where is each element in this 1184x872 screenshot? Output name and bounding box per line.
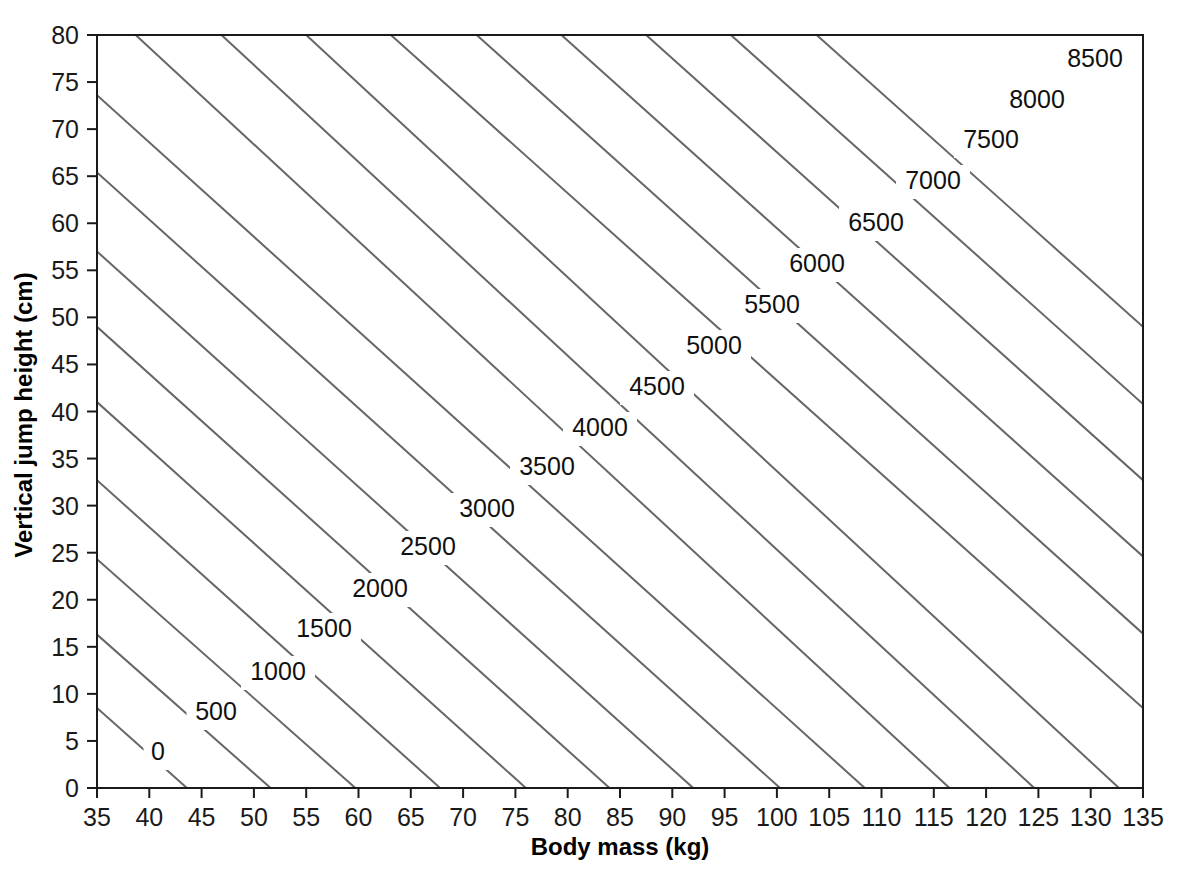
y-tick-label-45: 45 bbox=[51, 350, 79, 378]
x-tick-label-70: 70 bbox=[449, 803, 477, 831]
x-tick-label-55: 55 bbox=[292, 803, 320, 831]
x-tick-label-135: 135 bbox=[1122, 803, 1164, 831]
x-axis-title: Body mass (kg) bbox=[531, 833, 710, 860]
x-tick-label-65: 65 bbox=[397, 803, 425, 831]
x-axis-tick-labels: 3540455055606570758085909510010511011512… bbox=[83, 803, 1164, 831]
y-tick-label-50: 50 bbox=[51, 303, 79, 331]
contour-label-3500: 3500 bbox=[519, 452, 575, 480]
x-tick-label-85: 85 bbox=[606, 803, 634, 831]
y-axis-tick-labels: 05101520253035404550556065707580 bbox=[51, 21, 79, 802]
contour-label-1500: 1500 bbox=[296, 614, 352, 642]
x-tick-label-40: 40 bbox=[135, 803, 163, 831]
x-tick-label-105: 105 bbox=[808, 803, 850, 831]
x-tick-label-95: 95 bbox=[711, 803, 739, 831]
y-tick-label-30: 30 bbox=[51, 492, 79, 520]
contour-label-2000: 2000 bbox=[352, 574, 408, 602]
x-tick-label-75: 75 bbox=[501, 803, 529, 831]
contour-label-8500: 8500 bbox=[1067, 44, 1123, 72]
contour-label-5000: 5000 bbox=[686, 331, 742, 359]
contour-label-3000: 3000 bbox=[459, 494, 515, 522]
y-tick-label-25: 25 bbox=[51, 539, 79, 567]
y-tick-label-5: 5 bbox=[65, 727, 79, 755]
x-tick-label-80: 80 bbox=[554, 803, 582, 831]
contour-label-2500: 2500 bbox=[400, 532, 456, 560]
y-tick-label-0: 0 bbox=[65, 774, 79, 802]
x-tick-label-45: 45 bbox=[188, 803, 216, 831]
x-tick-label-90: 90 bbox=[658, 803, 686, 831]
x-tick-label-100: 100 bbox=[756, 803, 798, 831]
x-axis-ticks bbox=[97, 788, 1143, 798]
contour-label-7000: 7000 bbox=[905, 166, 961, 194]
x-tick-label-125: 125 bbox=[1018, 803, 1060, 831]
x-tick-label-35: 35 bbox=[83, 803, 111, 831]
contour-plot-svg: 0500100015002000250030003500400045005000… bbox=[0, 0, 1184, 872]
contour-label-500: 500 bbox=[195, 697, 237, 725]
x-tick-label-130: 130 bbox=[1070, 803, 1112, 831]
x-tick-label-120: 120 bbox=[965, 803, 1007, 831]
y-tick-label-80: 80 bbox=[51, 21, 79, 49]
y-tick-label-35: 35 bbox=[51, 445, 79, 473]
x-tick-label-115: 115 bbox=[914, 803, 954, 831]
y-axis-title: Vertical jump height (cm) bbox=[10, 272, 37, 557]
contour-label-4000: 4000 bbox=[572, 413, 628, 441]
contour-label-6500: 6500 bbox=[848, 208, 904, 236]
y-tick-label-40: 40 bbox=[51, 398, 79, 426]
contour-label-6000: 6000 bbox=[789, 249, 845, 277]
y-tick-label-60: 60 bbox=[51, 209, 79, 237]
y-axis-ticks bbox=[87, 35, 97, 788]
y-tick-label-10: 10 bbox=[51, 680, 79, 708]
contour-label-7500: 7500 bbox=[963, 125, 1019, 153]
x-tick-label-60: 60 bbox=[345, 803, 373, 831]
contour-label-4500: 4500 bbox=[629, 372, 685, 400]
y-tick-label-20: 20 bbox=[51, 586, 79, 614]
contour-label-5500: 5500 bbox=[744, 290, 800, 318]
x-tick-label-50: 50 bbox=[240, 803, 268, 831]
y-tick-label-15: 15 bbox=[51, 633, 79, 661]
contour-chart-figure: 0500100015002000250030003500400045005000… bbox=[0, 0, 1184, 872]
y-tick-label-55: 55 bbox=[51, 256, 79, 284]
contour-label-0: 0 bbox=[151, 737, 165, 765]
y-tick-label-65: 65 bbox=[51, 162, 79, 190]
x-tick-label-110: 110 bbox=[862, 803, 902, 831]
contour-label-8000: 8000 bbox=[1009, 85, 1065, 113]
y-tick-label-70: 70 bbox=[51, 115, 79, 143]
contour-label-1000: 1000 bbox=[250, 657, 306, 685]
y-tick-label-75: 75 bbox=[51, 68, 79, 96]
